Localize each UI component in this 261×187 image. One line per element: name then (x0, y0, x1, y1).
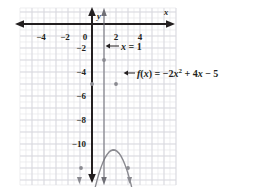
y-tick-neg2: −2 (76, 43, 86, 53)
y-tick-neg4: −4 (76, 67, 86, 77)
fn-tail: + 4 (182, 68, 198, 79)
y-tick-neg8: −8 (76, 115, 86, 125)
x-tick-2: 2 (114, 32, 119, 42)
parabola-graph: −4 −2 0 2 4 −2 −4 −6 −8 −10 y x x = 1 f(… (0, 0, 261, 187)
function-callout: f(x) = −2x2 + 4x − 5 (124, 67, 219, 79)
x-axis-label: x (163, 7, 169, 17)
fn-tail-end: − 5 (203, 68, 219, 79)
point-0-neg5 (90, 82, 94, 86)
fn-equals: = −2 (152, 68, 173, 79)
y-axis-label: y (96, 11, 101, 21)
y-tick-neg10: −10 (72, 139, 87, 149)
point-2-neg5 (114, 82, 118, 86)
vertex-point (102, 58, 106, 62)
y-tick-neg6: −6 (76, 91, 86, 101)
axis-of-symmetry-text: x = 1 (120, 41, 142, 52)
axis-of-symmetry-rest: = 1 (126, 41, 142, 52)
point-right-low (126, 166, 130, 170)
figure-background (0, 0, 261, 187)
point-left-low (79, 166, 83, 170)
graph-figure: −4 −2 0 2 4 −2 −4 −6 −8 −10 y x x = 1 f(… (0, 0, 261, 187)
x-tick-0: 0 (83, 32, 88, 42)
x-tick-neg2: −2 (60, 32, 70, 42)
function-label-text: f(x) = −2x2 + 4x − 5 (137, 67, 218, 79)
x-tick-neg4: −4 (36, 32, 46, 42)
